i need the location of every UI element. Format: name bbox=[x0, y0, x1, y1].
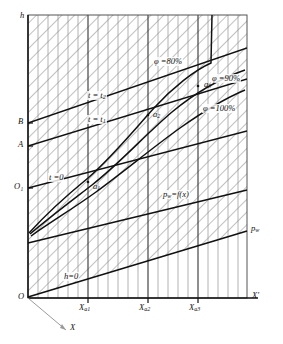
curve-label-t2: t = t2 bbox=[87, 91, 107, 100]
curve-label-t1: t = t1 bbox=[87, 115, 107, 124]
origin-label-O: O bbox=[17, 292, 25, 301]
x-tick-label-Xa2: Xa2 bbox=[138, 303, 151, 312]
curve-label-pw-fx: pw=f(x) bbox=[162, 190, 190, 199]
diagram-canvas bbox=[0, 0, 283, 344]
axis-label-x-oblique: X bbox=[69, 323, 76, 332]
point-label-a2: a2 bbox=[152, 110, 161, 119]
curve-label-phi-80: φ =80% bbox=[153, 57, 183, 66]
humidity-enthalpy-diagram: h X' X O pw B A O₁ Xa1 Xa2 Xa3 φ =80% φ … bbox=[0, 0, 283, 344]
curve-label-h0: h=0 bbox=[63, 272, 79, 281]
point-a2 bbox=[147, 114, 150, 117]
oblique-x-axis-arrow bbox=[60, 324, 66, 330]
x-tick-label-Xa1: Xa1 bbox=[78, 303, 91, 312]
x-tick-label-Xa3: Xa3 bbox=[188, 303, 201, 312]
curve-label-phi-90: φ =90% bbox=[211, 74, 241, 83]
axis-label-x-prime: X' bbox=[251, 291, 260, 300]
oblique-x-axis bbox=[28, 298, 66, 330]
y-mark-A: A bbox=[17, 140, 24, 149]
curve-label-phi-100: φ =100% bbox=[202, 104, 236, 113]
y-mark-O1: O₁ bbox=[13, 182, 24, 191]
axis-label-pw-right: pw bbox=[250, 224, 260, 233]
y-mark-B: B bbox=[17, 117, 24, 126]
curve-label-t0: t =0 bbox=[48, 173, 64, 182]
axis-label-h: h bbox=[19, 11, 25, 20]
point-label-a3: a3 bbox=[203, 80, 212, 89]
point-label-a1: a1 bbox=[92, 182, 101, 191]
point-a1 bbox=[87, 181, 90, 184]
point-a3 bbox=[197, 85, 200, 88]
